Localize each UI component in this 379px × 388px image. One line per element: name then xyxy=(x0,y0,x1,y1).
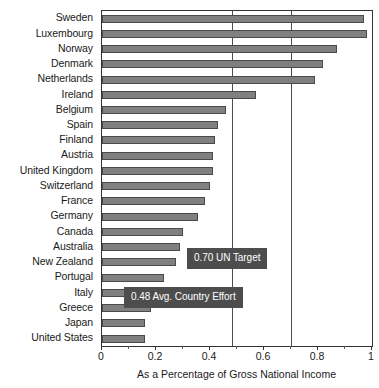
bar-row xyxy=(102,87,372,102)
bar-row xyxy=(102,331,372,346)
bar xyxy=(102,91,256,99)
bar-row xyxy=(102,11,372,26)
bar xyxy=(102,30,367,38)
bar-row xyxy=(102,72,372,87)
bar xyxy=(102,152,213,160)
avg-effort-callout: 0.48 Avg. Country Effort xyxy=(124,287,243,308)
bar xyxy=(102,182,210,190)
category-label: United Kingdom xyxy=(0,162,97,177)
x-tick-minor xyxy=(344,346,345,349)
bar xyxy=(102,60,323,68)
category-label: Switzerland xyxy=(0,178,97,193)
bar-row xyxy=(102,270,372,285)
category-label: Portugal xyxy=(0,269,97,284)
bar xyxy=(102,197,205,205)
bar xyxy=(102,228,183,236)
category-label: Finland xyxy=(0,132,97,147)
bar xyxy=(102,213,198,221)
category-label: Austria xyxy=(0,147,97,162)
bar xyxy=(102,258,176,266)
category-label: New Zealand xyxy=(0,254,97,269)
x-tick-minor xyxy=(236,346,237,349)
bar-row xyxy=(102,194,372,209)
bar-row xyxy=(102,179,372,194)
bar-row xyxy=(102,102,372,117)
bar xyxy=(102,15,364,23)
category-label: Greece xyxy=(0,299,97,314)
bar xyxy=(102,274,164,282)
x-tick-label: 0.2 xyxy=(148,351,163,362)
bar-row xyxy=(102,209,372,224)
bar-row xyxy=(102,163,372,178)
category-label: Italy xyxy=(0,284,97,299)
bar xyxy=(102,335,145,343)
x-tick-label: 0.8 xyxy=(310,351,325,362)
x-tick-minor xyxy=(128,346,129,349)
x-axis-title: As a Percentage of Gross National Income xyxy=(101,369,372,380)
category-label: Luxembourg xyxy=(0,25,97,40)
un-target-callout: 0.70 UN Target xyxy=(187,248,267,269)
bar-row xyxy=(102,26,372,41)
bar-chart: Sweden Luxembourg Norway Denmark Netherl… xyxy=(0,0,379,388)
bar-row xyxy=(102,57,372,72)
x-tick-label: 0.4 xyxy=(202,351,217,362)
category-label: Japan xyxy=(0,315,97,330)
bar xyxy=(102,243,180,251)
bar-row xyxy=(102,118,372,133)
category-label: Ireland xyxy=(0,86,97,101)
x-tick-label: 1 xyxy=(368,351,374,362)
category-label: Spain xyxy=(0,117,97,132)
x-tick-minor xyxy=(182,346,183,349)
bar-row xyxy=(102,41,372,56)
category-label: Denmark xyxy=(0,56,97,71)
bar-row xyxy=(102,224,372,239)
category-label: Sweden xyxy=(0,10,97,25)
bar xyxy=(102,167,213,175)
category-axis-labels: Sweden Luxembourg Norway Denmark Netherl… xyxy=(0,10,97,345)
category-label: Belgium xyxy=(0,101,97,116)
category-label: Netherlands xyxy=(0,71,97,86)
x-tick-label: 0 xyxy=(98,351,104,362)
category-label: Norway xyxy=(0,40,97,55)
bar-row xyxy=(102,148,372,163)
bar xyxy=(102,136,215,144)
bar xyxy=(102,319,145,327)
category-label: Australia xyxy=(0,239,97,254)
x-tick-minor xyxy=(290,346,291,349)
category-label: France xyxy=(0,193,97,208)
bar xyxy=(102,76,315,84)
x-tick-label: 0.6 xyxy=(256,351,271,362)
category-label: United States xyxy=(0,330,97,345)
bar xyxy=(102,121,218,129)
bar-row xyxy=(102,316,372,331)
bar xyxy=(102,106,226,114)
bar xyxy=(102,45,337,53)
bar-row xyxy=(102,133,372,148)
category-label: Germany xyxy=(0,208,97,223)
category-label: Canada xyxy=(0,223,97,238)
